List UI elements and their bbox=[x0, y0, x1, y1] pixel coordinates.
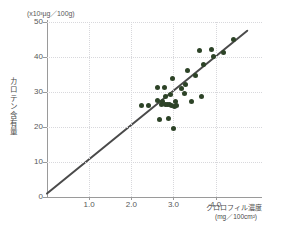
x-axis-title-text: クロロフィル濃度 bbox=[206, 204, 262, 211]
y-axis-tick-label: 0 bbox=[39, 193, 43, 201]
data-point bbox=[209, 47, 214, 52]
y-axis-tick-label: 50 bbox=[34, 18, 43, 26]
data-point bbox=[171, 126, 176, 131]
data-point bbox=[199, 94, 204, 99]
y-axis-title: カ ロ テ ン 含 有 量 bbox=[8, 78, 19, 137]
data-point bbox=[182, 91, 187, 96]
y-axis-tick-label: 30 bbox=[34, 88, 43, 96]
y-axis-tick-labels: 01020304050 bbox=[20, 22, 43, 197]
x-axis-tick-label: 2.0 bbox=[126, 201, 137, 209]
x-axis-tick-label: 1.0 bbox=[84, 201, 95, 209]
data-point bbox=[168, 92, 173, 97]
gridline-horizontal bbox=[47, 162, 262, 163]
x-axis-title: クロロフィル濃度 (mg／100cm²) bbox=[206, 203, 262, 221]
gridline-vertical bbox=[173, 22, 174, 197]
y-axis-title-c6: 量 bbox=[8, 128, 19, 136]
data-point bbox=[183, 82, 188, 87]
data-point bbox=[185, 68, 190, 73]
y-axis-tick-label: 20 bbox=[34, 123, 43, 131]
data-point bbox=[146, 103, 151, 108]
gridline-horizontal bbox=[47, 22, 262, 23]
x-axis-line bbox=[47, 197, 262, 198]
x-axis-tick-label: 3.0 bbox=[168, 201, 179, 209]
data-point bbox=[166, 116, 171, 121]
y-axis-tick bbox=[43, 57, 47, 58]
gridline-vertical bbox=[216, 22, 217, 197]
y-axis-tick-label: 40 bbox=[34, 53, 43, 61]
y-axis-tick bbox=[43, 162, 47, 163]
gridline-horizontal bbox=[47, 92, 262, 93]
y-axis-tick-label: 10 bbox=[34, 158, 43, 166]
gridline-horizontal bbox=[47, 57, 262, 58]
plot-area bbox=[47, 22, 262, 197]
data-point bbox=[189, 99, 194, 104]
y-axis-tick bbox=[43, 92, 47, 93]
gridline-vertical bbox=[131, 22, 132, 197]
y-axis-tick bbox=[43, 127, 47, 128]
data-point bbox=[231, 37, 236, 42]
gridline-vertical bbox=[89, 22, 90, 197]
scatter-chart: (x10³µg／100g) カ ロ テ ン 含 有 量 01020304050 … bbox=[0, 0, 282, 238]
x-axis-unit-caption: (mg／100cm²) bbox=[206, 212, 262, 221]
regression-line bbox=[47, 31, 247, 194]
y-axis-tick bbox=[43, 197, 47, 198]
data-point bbox=[162, 85, 167, 90]
trend-line bbox=[47, 22, 262, 197]
data-point bbox=[211, 54, 216, 59]
gridline-horizontal bbox=[47, 127, 262, 128]
y-axis-tick bbox=[43, 22, 47, 23]
